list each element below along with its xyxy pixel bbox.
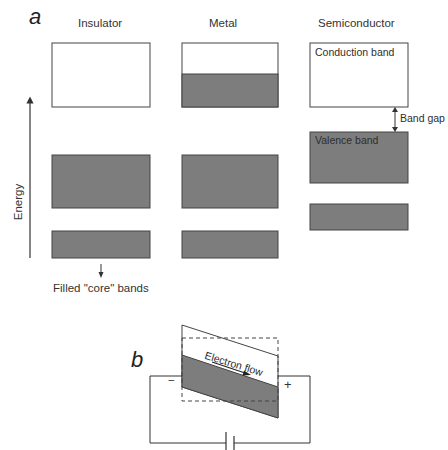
metal-core-band — [182, 231, 278, 258]
band-diagram — [0, 0, 448, 450]
valence-band-label: Valence band — [315, 134, 378, 146]
metal-filled-band — [182, 155, 278, 208]
insulator-filled-band — [52, 155, 150, 208]
conduction-band-label: Conduction band — [315, 46, 394, 58]
minus-terminal-label: − — [168, 374, 175, 386]
plus-terminal-label: + — [284, 377, 292, 392]
semiconductor-core-band — [310, 204, 408, 230]
insulator-empty-band — [52, 43, 150, 107]
metal-partial-band-fill — [182, 74, 278, 107]
insulator-core-band — [52, 231, 150, 258]
core-bands-label: Filled "core" bands — [53, 282, 149, 294]
energy-axis-label: Energy — [12, 182, 24, 222]
band-gap-label: Band gap — [400, 112, 445, 124]
